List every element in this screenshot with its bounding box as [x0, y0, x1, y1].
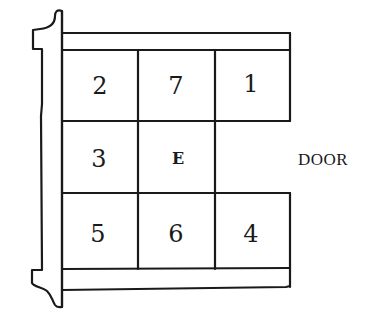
floor-plan-diagram: 2 7 1 3 E 5 6 4 DOOR — [0, 0, 381, 323]
cell-3: 3 — [91, 147, 106, 171]
cell-7: 7 — [168, 74, 183, 98]
cell-6: 6 — [168, 222, 183, 246]
cell-e-center: E — [172, 151, 184, 167]
left-post-outline — [32, 10, 62, 307]
cell-1: 1 — [243, 72, 258, 96]
cell-2: 2 — [92, 74, 107, 98]
bottom-rail-bottom — [62, 286, 290, 290]
grid-line-h3 — [62, 268, 290, 269]
door-label: DOOR — [298, 150, 348, 170]
cell-4: 4 — [243, 222, 258, 246]
cell-5: 5 — [90, 222, 105, 246]
